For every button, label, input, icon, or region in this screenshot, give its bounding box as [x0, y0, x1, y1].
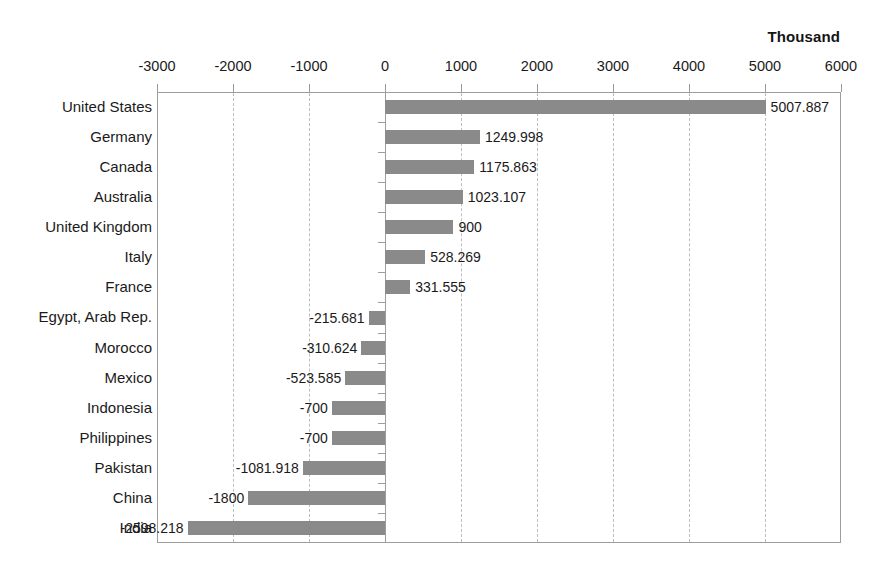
x-tick-mark — [461, 84, 462, 92]
bar-value-label: 900 — [458, 220, 481, 234]
bar-value-label: -1800 — [208, 491, 244, 505]
x-tick-label: 2000 — [521, 58, 553, 74]
row-tick — [378, 423, 385, 424]
bar — [248, 491, 385, 505]
x-tick-mark — [841, 84, 842, 92]
x-tick-label: 0 — [381, 58, 389, 74]
bar — [332, 431, 385, 445]
bar — [385, 160, 474, 174]
bar-value-label: -700 — [300, 401, 328, 415]
bar-value-label: 528.269 — [430, 250, 481, 264]
bar — [332, 401, 385, 415]
x-tick-label: 3000 — [597, 58, 629, 74]
x-tick-label: 1000 — [445, 58, 477, 74]
x-tick-label: 6000 — [825, 58, 857, 74]
x-tick-mark — [385, 84, 386, 92]
bar-chart: Thousand -3000-2000-10000100020003000400… — [0, 0, 884, 578]
bar — [303, 461, 385, 475]
unit-label: Thousand — [768, 28, 840, 45]
bar — [385, 100, 766, 114]
bar-value-label: -523.585 — [286, 371, 341, 385]
bar — [345, 371, 385, 385]
bar — [361, 341, 385, 355]
x-tick-mark — [537, 84, 538, 92]
bar-value-label: 1249.998 — [485, 130, 543, 144]
row-tick — [378, 302, 385, 303]
x-tick-mark — [309, 84, 310, 92]
row-tick — [378, 122, 385, 123]
bar-value-label: 1175.863 — [479, 160, 536, 174]
row-tick — [378, 212, 385, 213]
bar — [385, 220, 453, 234]
bar-value-label: -310.624 — [302, 341, 357, 355]
x-tick-mark — [613, 84, 614, 92]
bar-series: 5007.8871249.9981175.8631023.107900528.2… — [0, 92, 884, 543]
row-tick — [378, 453, 385, 454]
bar — [385, 280, 410, 294]
bar-value-label: 331.555 — [415, 280, 466, 294]
bar-value-label: -1081.918 — [236, 461, 299, 475]
bar-value-label: -215.681 — [309, 311, 364, 325]
x-tick-label: -2000 — [214, 58, 251, 74]
x-tick-label: -3000 — [138, 58, 175, 74]
row-tick — [378, 393, 385, 394]
row-tick — [378, 182, 385, 183]
bar — [385, 130, 480, 144]
row-tick — [378, 363, 385, 364]
x-tick-mark — [157, 84, 158, 92]
bar-value-label: -700 — [300, 431, 328, 445]
x-tick-label: 5000 — [749, 58, 781, 74]
row-tick — [378, 513, 385, 514]
bar — [369, 311, 385, 325]
x-tick-label: -1000 — [290, 58, 327, 74]
x-tick-mark — [765, 84, 766, 92]
x-tick-label: 4000 — [673, 58, 705, 74]
row-tick — [378, 483, 385, 484]
bar-value-label: 5007.887 — [771, 100, 829, 114]
bar — [188, 521, 385, 535]
x-tick-mark — [233, 84, 234, 92]
x-axis-tick-labels: -3000-2000-10000100020003000400050006000 — [0, 58, 884, 78]
row-tick — [378, 152, 385, 153]
bar — [385, 250, 425, 264]
x-tick-mark — [689, 84, 690, 92]
bar-value-label: 1023.107 — [468, 190, 526, 204]
row-tick — [378, 272, 385, 273]
row-tick — [378, 242, 385, 243]
bar — [385, 190, 463, 204]
bar-value-label: -2598.218 — [120, 521, 183, 535]
row-tick — [378, 333, 385, 334]
